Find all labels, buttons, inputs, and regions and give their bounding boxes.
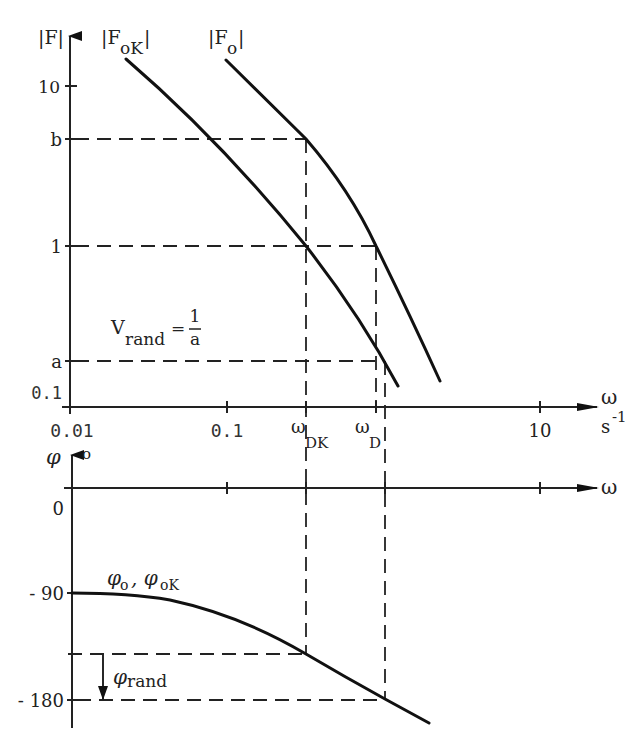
curve-f-ok [126,59,398,386]
y-label-10: 10 [38,77,60,97]
svg-text:ω: ω [355,416,370,437]
x-unit-label: s [601,416,610,437]
label-phase-curve: φ o , φ oK [107,566,179,593]
y-label-0.1: 0.1 [31,383,62,403]
svg-text:=: = [171,318,185,338]
svg-text:|: | [238,26,244,49]
label-f-o: |F o | [208,26,244,58]
svg-text:DK: DK [305,434,329,452]
x-unit-exponent: -1 [612,408,627,426]
phase-plot: φ o 0 - 90 - 180 ω φ o , φ oK φ rand [18,445,617,728]
svg-text:|: | [144,26,150,49]
curve-f-o [226,60,440,381]
svg-text:D: D [369,434,381,452]
magnitude-y-axis-label: |F| [38,26,64,49]
x-label-0.01: 0.01 [50,420,93,441]
svg-text:o: o [227,38,237,58]
svg-text:|F: |F [101,26,121,49]
svg-text:, φ: , φ [131,566,158,590]
label-phase-margin: φ rand [113,665,167,691]
svg-text:oK: oK [120,38,143,58]
magnitude-x-axis-label: ω [601,385,617,409]
svg-text:1: 1 [190,306,201,326]
label-omega-dk: ω DK [291,416,329,452]
phase-y-label-90: - 90 [29,583,64,604]
x-label-10: 10 [529,420,552,441]
curve-phase [72,593,429,723]
label-omega-d: ω D [355,416,381,452]
phase-y-axis-label: φ [46,445,61,469]
x-label-0.1: 0.1 [211,420,244,441]
svg-text:a: a [190,329,200,349]
svg-text:oK: oK [160,577,179,593]
annotation-v-rand: V rand = 1 a [110,306,201,349]
y-label-b: b [50,129,62,150]
label-f-ok: |F oK | [101,26,150,58]
phase-y-label-0: 0 [53,498,64,519]
svg-text:o: o [120,577,128,593]
svg-text:rand: rand [127,671,167,691]
bode-diagram-canvas: |F| |F oK | |F o | 10 b 1 a 0.1 0.01 0.1… [0,0,637,748]
phase-x-axis-label: ω [601,475,617,499]
bode-diagram: |F| |F oK | |F o | 10 b 1 a 0.1 0.01 0.1… [0,0,637,748]
svg-text:rand: rand [125,329,165,349]
y-label-1: 1 [51,236,62,257]
svg-text:φ: φ [113,665,127,689]
phase-y-label-180: - 180 [18,690,64,711]
magnitude-plot: |F| |F oK | |F o | 10 b 1 a 0.1 0.01 0.1… [31,26,626,700]
y-label-a: a [51,351,62,372]
svg-text:φ: φ [107,566,121,590]
svg-text:V: V [110,316,125,338]
phase-y-unit: o [82,445,91,463]
svg-text:|F: |F [208,26,228,49]
svg-text:ω: ω [291,416,306,437]
